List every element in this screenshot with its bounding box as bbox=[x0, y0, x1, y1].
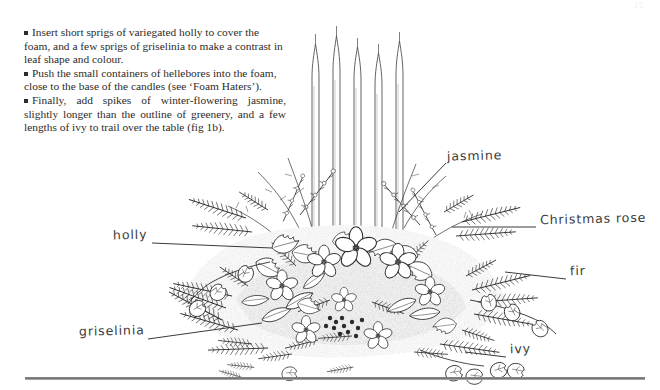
label-holly: holly bbox=[113, 227, 148, 243]
label-jasmine: jasmine bbox=[447, 147, 503, 163]
leader-jasmine bbox=[399, 163, 446, 212]
candle bbox=[312, 34, 319, 235]
label-griselinia: griselinia bbox=[79, 322, 145, 339]
candle bbox=[375, 44, 382, 235]
label-ivy: ivy bbox=[510, 341, 531, 357]
label-fir: fir bbox=[570, 263, 586, 278]
book-page: 25 Insert short sprigs of variegated hol… bbox=[0, 0, 660, 390]
label-christmas-rose: Christmas rose bbox=[540, 210, 647, 228]
footer-horizontal-rule bbox=[25, 377, 645, 380]
leader-ivy bbox=[465, 352, 506, 357]
candle bbox=[354, 38, 361, 235]
candle-group bbox=[312, 26, 403, 235]
candle bbox=[333, 26, 340, 235]
leader-fir bbox=[505, 272, 566, 279]
